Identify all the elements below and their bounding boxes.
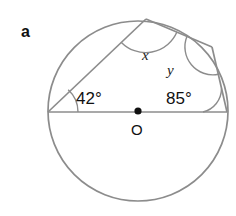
chord-apex-to-upper-right xyxy=(146,19,212,47)
angle-label-85: 85° xyxy=(166,90,192,107)
angle-label-42: 42° xyxy=(76,90,102,107)
angle-label-x: x xyxy=(142,48,149,63)
geometry-figure: a 42° x y 85° O xyxy=(0,0,236,216)
center-point-label-o: O xyxy=(131,122,143,137)
angle-arc-right xyxy=(203,89,222,112)
circle-geometry-diagram xyxy=(0,0,236,216)
chord-upper-right-to-right xyxy=(212,47,227,112)
center-point-dot xyxy=(134,107,141,114)
angle-label-y: y xyxy=(167,63,174,78)
part-label-a: a xyxy=(21,24,29,40)
